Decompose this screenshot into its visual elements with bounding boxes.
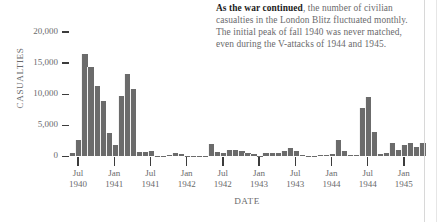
x-axis-tick-label: Jul1944 (348, 168, 388, 190)
x-axis-tick-year: 1942 (167, 179, 207, 190)
x-axis-tick (114, 157, 115, 166)
x-axis-tick-label: Jul1943 (275, 168, 315, 190)
y-axis-tick-label: 5,000 (6, 119, 58, 129)
x-axis-tick (150, 157, 151, 166)
x-axis-tick-label: Jul1941 (130, 168, 170, 190)
x-axis-tick (222, 157, 223, 166)
bar (371, 132, 377, 157)
x-axis-title: DATE (68, 196, 426, 206)
y-axis-tick-label: 15,000 (6, 57, 58, 67)
y-axis-tick (62, 94, 69, 95)
y-axis-tick (62, 62, 69, 63)
x-axis-tick-year: 1944 (348, 179, 388, 190)
x-axis-tick-year: 1942 (203, 179, 243, 190)
chart-figure: As the war continued, the number of civi… (0, 0, 438, 222)
y-axis-tick (62, 31, 69, 32)
x-axis-tick (77, 157, 78, 166)
x-axis-tick-month: Jan (239, 168, 279, 179)
x-axis-tick (186, 157, 187, 166)
page-column-rule (424, 0, 425, 222)
x-axis-tick (367, 157, 368, 166)
x-axis-tick-month: Jul (348, 168, 388, 179)
y-axis-tick-label: 0 (6, 150, 58, 160)
x-axis-tick-month: Jan (311, 168, 351, 179)
x-axis-tick-year: 1945 (384, 179, 424, 190)
annotation-lead: As the war continued (216, 3, 303, 13)
y-axis-tick (62, 156, 69, 157)
x-axis-tick-label: Jul1942 (203, 168, 243, 190)
x-axis-tick-label: Jan1945 (384, 168, 424, 190)
x-axis-tick (331, 157, 332, 166)
page-edge-rule (436, 0, 437, 222)
x-axis-tick-month: Jul (130, 168, 170, 179)
y-axis-line (0, 0, 1, 125)
y-axis-tick-label: 20,000 (6, 26, 58, 36)
x-axis-tick-label: Jan1942 (167, 168, 207, 190)
x-axis-tick-month: Jan (384, 168, 424, 179)
y-axis-tick (62, 125, 69, 126)
bar-plot-area (69, 32, 425, 156)
x-axis-tick-month: Jan (94, 168, 134, 179)
y-axis-title: CASUALTIES (15, 30, 25, 126)
x-axis-tick-year: 1944 (311, 179, 351, 190)
y-axis-tick-label: 10,000 (6, 88, 58, 98)
x-axis-tick (258, 157, 259, 166)
x-axis-tick-year: 1941 (130, 179, 170, 190)
x-axis-tick-label: Jan1944 (311, 168, 351, 190)
x-axis-tick-month: Jan (167, 168, 207, 179)
x-axis-tick (403, 157, 404, 166)
x-axis-tick-month: Jul (58, 168, 98, 179)
x-axis-tick-year: 1943 (275, 179, 315, 190)
x-axis-tick-year: 1943 (239, 179, 279, 190)
x-axis-tick-label: Jan1943 (239, 168, 279, 190)
x-axis-tick (295, 157, 296, 166)
x-axis-tick-label: Jan1941 (94, 168, 134, 190)
x-axis-tick-month: Jul (275, 168, 315, 179)
x-axis-tick-year: 1941 (94, 179, 134, 190)
bar (130, 89, 136, 156)
x-axis-tick-year: 1940 (58, 179, 98, 190)
x-axis-tick-month: Jul (203, 168, 243, 179)
x-axis-tick-label: Jul1940 (58, 168, 98, 190)
